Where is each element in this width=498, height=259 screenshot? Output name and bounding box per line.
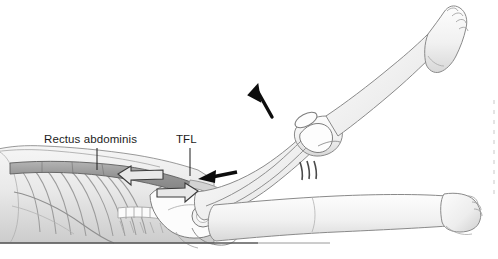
tfl-label: TFL bbox=[176, 133, 197, 145]
anatomy-figure: Rectus abdominis TFL bbox=[0, 0, 498, 259]
anatomy-illustration: Rectus abdominis TFL bbox=[0, 0, 498, 259]
rectus-abdominis-label: Rectus abdominis bbox=[44, 133, 137, 145]
